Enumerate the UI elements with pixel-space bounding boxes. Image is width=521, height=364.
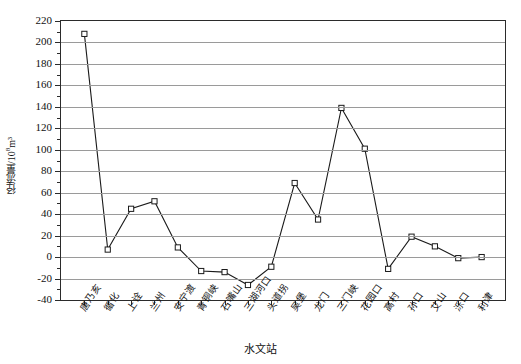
gridline [61, 128, 505, 129]
y-axis-minor-tick [57, 203, 60, 204]
y-axis-tick-mark [55, 64, 60, 65]
data-point-marker [82, 31, 87, 36]
y-axis-minor-tick [57, 139, 60, 140]
gridline [61, 42, 505, 43]
y-axis-tick-label: 40 [18, 208, 52, 219]
y-axis-tick-label: 120 [18, 122, 52, 133]
y-axis-tick-mark [55, 236, 60, 237]
y-axis-tick-mark [55, 42, 60, 43]
y-axis-tick-label: 60 [18, 187, 52, 198]
y-axis-tick-label: 100 [18, 144, 52, 155]
data-point-marker [129, 206, 134, 211]
y-axis-tick-mark [55, 279, 60, 280]
gridline [61, 236, 505, 237]
y-axis-minor-tick [57, 32, 60, 33]
gridline [61, 214, 505, 215]
x-axis-title: 水文站 [0, 340, 521, 356]
y-axis-tick-mark [55, 257, 60, 258]
y-axis-minor-tick [57, 289, 60, 290]
y-axis-title-exponent: 8 [4, 147, 12, 151]
y-axis-minor-tick [57, 182, 60, 183]
y-axis-tick-mark [55, 150, 60, 151]
y-axis-tick-label: 220 [18, 15, 52, 26]
data-point-marker [245, 282, 250, 287]
y-axis-tick-mark [55, 300, 60, 301]
gridline [61, 279, 505, 280]
gridline [61, 85, 505, 86]
series-line [84, 34, 481, 285]
data-point-marker [269, 264, 274, 269]
data-point-marker [199, 268, 204, 273]
y-axis-tick-mark [55, 128, 60, 129]
y-axis-tick-mark [55, 193, 60, 194]
y-axis-tick-label: 180 [18, 58, 52, 69]
y-axis-minor-tick [57, 118, 60, 119]
y-axis-tick-mark [55, 85, 60, 86]
runoff-line-chart: 径流量/108m³ -40-20020406080100120140160180… [0, 0, 521, 364]
y-axis-tick-mark [55, 214, 60, 215]
y-axis-tick-mark [55, 21, 60, 22]
data-point-marker [315, 217, 320, 222]
y-axis-minor-tick [57, 53, 60, 54]
data-point-marker [292, 180, 297, 185]
y-axis-tick-label: 200 [18, 36, 52, 47]
y-axis-tick-label: 80 [18, 165, 52, 176]
data-point-marker [175, 245, 180, 250]
y-axis-title-unit: m³ [6, 136, 17, 147]
y-axis-tick-label: 20 [18, 230, 52, 241]
y-axis-tick-label: 160 [18, 79, 52, 90]
y-axis-title: 径流量/108m³ [2, 110, 18, 220]
y-axis-tick-mark [55, 171, 60, 172]
y-axis-minor-tick [57, 268, 60, 269]
data-point-marker [432, 244, 437, 249]
y-axis-minor-tick [57, 161, 60, 162]
gridline [61, 171, 505, 172]
gridline [61, 150, 505, 151]
data-series-layer [61, 21, 505, 300]
y-axis-minor-tick [57, 246, 60, 247]
y-axis-minor-tick [57, 225, 60, 226]
y-axis-title-text: 径流量/10 [6, 151, 17, 194]
gridline [61, 257, 505, 258]
y-axis-minor-tick [57, 96, 60, 97]
y-axis-tick-label: 0 [18, 251, 52, 262]
data-point-marker [386, 266, 391, 271]
y-axis-tick-label: 140 [18, 101, 52, 112]
gridline [61, 64, 505, 65]
gridline [61, 193, 505, 194]
y-axis-tick-label: -20 [18, 273, 52, 284]
gridline [61, 107, 505, 108]
data-point-marker [222, 270, 227, 275]
data-point-marker [152, 199, 157, 204]
y-axis-tick-label: -40 [18, 294, 52, 305]
plot-area [60, 20, 506, 301]
y-axis-minor-tick [57, 75, 60, 76]
y-axis-tick-mark [55, 107, 60, 108]
data-point-marker [105, 247, 110, 252]
